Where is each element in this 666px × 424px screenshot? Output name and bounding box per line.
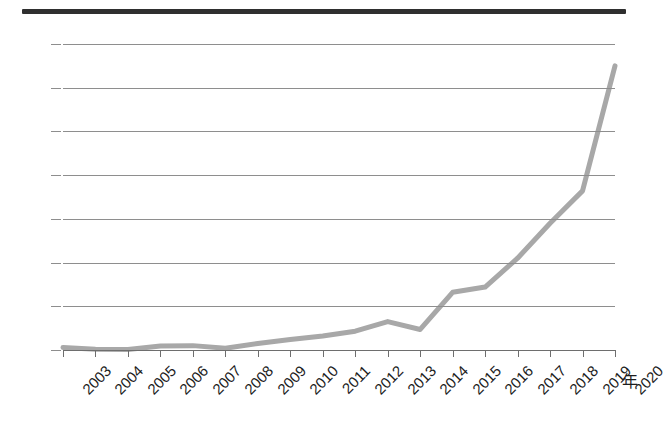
y-axis-tick-mark	[51, 131, 61, 132]
x-axis-tick-mark	[290, 350, 291, 357]
x-axis-tick-mark	[388, 350, 389, 357]
x-axis-tick-label: 2014	[436, 362, 472, 398]
x-axis-tick-label: 2012	[371, 362, 407, 398]
y-axis-tick-mark	[51, 219, 61, 220]
x-axis-tick-mark	[95, 350, 96, 357]
y-axis-tick-mark	[51, 306, 61, 307]
x-axis-tick-label: 2009	[274, 362, 310, 398]
gridline	[63, 44, 615, 45]
x-axis-tick-mark	[420, 350, 421, 357]
x-axis-tick-label: 2004	[111, 362, 147, 398]
x-axis-tick-mark	[453, 350, 454, 357]
axis-baseline	[63, 350, 615, 351]
y-axis-tick-mark	[51, 88, 61, 89]
x-axis-tick-label: 2003	[79, 362, 115, 398]
x-axis-tick-label: 2018	[566, 362, 602, 398]
x-axis-tick-label: 2010	[306, 362, 342, 398]
x-axis-tick-mark	[193, 350, 194, 357]
gridline	[63, 131, 615, 132]
gridline	[63, 175, 615, 176]
x-axis-tick-mark	[583, 350, 584, 357]
x-axis-tick-label: 2016	[501, 362, 537, 398]
x-axis-tick-mark	[128, 350, 129, 357]
x-axis-tick-mark	[323, 350, 324, 357]
x-axis-tick-mark	[485, 350, 486, 357]
x-axis-tick-mark	[615, 350, 616, 357]
x-axis-tick-label: 2017	[533, 362, 569, 398]
x-axis-tick-mark	[518, 350, 519, 357]
header-rule	[22, 9, 626, 14]
x-axis-tick-label: 2007	[209, 362, 245, 398]
x-axis-unit-label: 年	[622, 368, 638, 392]
line-series	[63, 44, 615, 350]
gridline	[63, 263, 615, 264]
clipped-title	[390, 0, 590, 8]
x-axis-tick-mark	[225, 350, 226, 357]
plot-area	[63, 44, 615, 350]
gridline	[63, 219, 615, 220]
x-axis-tick-label: 2013	[403, 362, 439, 398]
x-axis-tick-label: 2005	[144, 362, 180, 398]
x-axis-tick-mark	[550, 350, 551, 357]
x-axis-tick-mark	[160, 350, 161, 357]
x-axis-tick-mark	[258, 350, 259, 357]
y-axis-tick-mark	[51, 44, 61, 45]
y-axis-tick-mark	[51, 350, 61, 351]
x-axis-tick-mark	[355, 350, 356, 357]
x-axis-tick-label: 2015	[468, 362, 504, 398]
y-axis-tick-mark	[51, 175, 61, 176]
y-axis-tick-mark	[51, 263, 61, 264]
x-axis-tick-label: 2008	[241, 362, 277, 398]
gridline	[63, 306, 615, 307]
gridline	[63, 88, 615, 89]
x-axis-tick-label: 2006	[176, 362, 212, 398]
x-axis-tick-mark	[63, 350, 64, 357]
x-axis-tick-label: 2011	[338, 362, 373, 397]
